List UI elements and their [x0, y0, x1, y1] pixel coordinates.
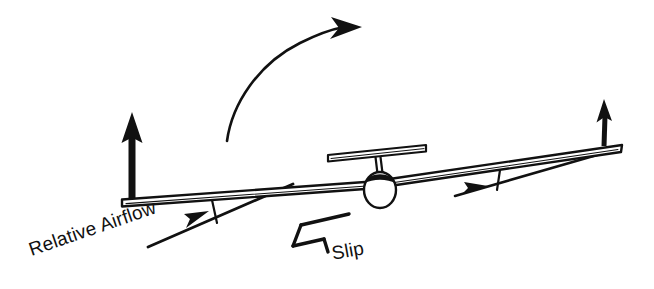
- figure-glider-in-a-slip: Relative Airflow Slip: [0, 0, 654, 289]
- fuselage: [364, 172, 396, 208]
- roll-arrow: [227, 17, 362, 141]
- tailplane: [328, 145, 426, 162]
- right-lift-arrow: [597, 99, 613, 146]
- left-lift-arrow: [122, 112, 143, 198]
- diagram-canvas: [0, 0, 654, 289]
- right-angle-tick: [497, 170, 500, 190]
